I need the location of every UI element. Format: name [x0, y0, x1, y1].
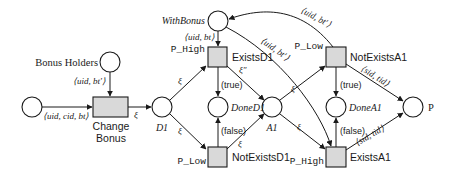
arc-label-start-to-change: ⟨uid, cid, bt⟩ — [43, 111, 90, 121]
transition-exists-d1 — [208, 47, 227, 67]
arc-label-a1-to-not-exists-a1: ξ — [291, 84, 295, 94]
label-exists-a1: ExistsA1 — [350, 151, 391, 163]
arc-label-d1-to-exists-d1: ξ — [178, 76, 182, 86]
arc-label-a1-to-exists-a1: ξ — [297, 122, 301, 132]
transition-change-bonus — [93, 97, 128, 117]
arc-label-withbonus-to-exists-d1: ⟨uid, bt⟩ — [184, 32, 215, 42]
label-p: P — [428, 102, 434, 113]
label-exists-d1-priority: P_High — [171, 44, 205, 55]
arc-label-d1-to-not-exists-d1: ξ — [178, 126, 182, 136]
place-withbonus — [208, 11, 228, 31]
place-bonus-holders — [100, 52, 120, 72]
label-withbonus: WithBonus — [162, 15, 205, 26]
label-exists-d1: ExistsD1 — [232, 51, 274, 63]
label-a1: A1 — [265, 122, 277, 133]
arc-label-exists-d1-to-a1: ξ″ — [239, 65, 247, 75]
label-exists-a1-priority: P_High — [290, 156, 324, 167]
place-start — [22, 97, 42, 117]
label-d1: D1 — [155, 122, 168, 133]
label-done-a1: DoneA1 — [348, 102, 382, 113]
transition-exists-a1 — [326, 147, 346, 167]
petri-net-diagram: Bonus Holders D1 WithBonus DoneD1 A1 Don… — [0, 0, 453, 175]
label-bonus-holders: Bonus Holders — [35, 57, 98, 68]
arc-label-not-exists-a1-to-withbonus: ⟨uid, bt′⟩ — [299, 5, 333, 29]
arc-label-holders-to-change: ⟨uid, bt′⟩ — [73, 76, 106, 86]
place-d1 — [152, 97, 172, 117]
arc-label-not-exists-d1-to-done-d1: (false) — [221, 126, 246, 136]
arc-a1-to-not-exists-a1 — [280, 66, 325, 100]
place-a1 — [262, 97, 282, 117]
label-change-bonus-line1: Change — [93, 120, 130, 132]
arc-label-exists-d1-to-done-d1: (true) — [221, 80, 243, 90]
arc-d1-to-not-exists-d1 — [170, 114, 206, 149]
arc-a1-to-exists-a1 — [280, 114, 325, 149]
label-not-exists-d1-priority: P_Low — [177, 156, 206, 167]
label-not-exists-a1-priority: P_Low — [294, 41, 323, 52]
place-done-d1 — [208, 97, 228, 117]
arc-d1-to-exists-d1 — [170, 66, 206, 100]
label-change-bonus-line2: Bonus — [96, 132, 126, 144]
transition-not-exists-a1 — [326, 47, 346, 67]
place-done-a1 — [326, 97, 346, 117]
label-not-exists-a1: NotExistsA1 — [350, 51, 407, 63]
label-done-d1: DoneD1 — [230, 102, 265, 113]
arc-label-not-exists-a1-to-done-a1: (true) — [340, 80, 362, 90]
transition-not-exists-d1 — [208, 147, 227, 167]
place-p — [403, 97, 423, 117]
arc-label-not-exists-d1-to-a1: ξ — [238, 139, 242, 149]
label-not-exists-d1: NotExistsD1 — [232, 151, 290, 163]
arc-label-change-to-d1: ξ — [134, 110, 138, 120]
